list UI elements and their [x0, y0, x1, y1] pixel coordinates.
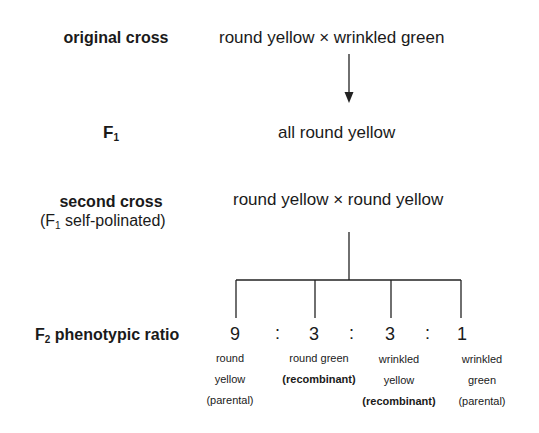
outcome-line: green — [442, 370, 522, 391]
ratio-separator: : — [425, 323, 430, 344]
second-cross-note-suffix: self-polinated) — [61, 212, 166, 229]
outcome-line: wrinkled — [349, 349, 449, 370]
outcome-status: (recombinant) — [349, 391, 449, 412]
outcome-line: wrinkled — [442, 349, 522, 370]
second-cross-content: round yellow × round yellow — [233, 190, 443, 210]
ratio-separator: : — [349, 323, 354, 344]
f2-label-main: F — [35, 326, 45, 343]
f1-content: all round yellow — [278, 123, 395, 143]
outcome-line: round — [190, 348, 270, 369]
original-cross-label: original cross — [56, 29, 176, 47]
ratio-value-1: 9 — [230, 324, 240, 345]
original-cross-content: round yellow × wrinkled green — [219, 28, 444, 48]
f1-label-sub: 1 — [113, 132, 119, 143]
branch-tree — [236, 232, 461, 318]
second-cross-note-prefix: (F — [40, 212, 55, 229]
ratio-value-4: 1 — [457, 324, 467, 345]
outcome-line: yellow — [349, 370, 449, 391]
f2-label: F2 phenotypic ratio — [35, 326, 179, 345]
second-cross-label: second cross — [46, 193, 176, 211]
outcome-round-yellow: round yellow (parental) — [190, 348, 270, 411]
outcome-line: yellow — [190, 369, 270, 390]
outcome-wrinkled-green: wrinkled green (parental) — [442, 349, 522, 412]
f2-label-suffix: phenotypic ratio — [50, 326, 179, 343]
outcome-status: (parental) — [190, 390, 270, 411]
outcome-wrinkled-yellow: wrinkled yellow (recombinant) — [349, 349, 449, 412]
f1-label: F1 — [96, 123, 126, 143]
f1-label-main: F — [103, 123, 113, 142]
outcome-status: (parental) — [442, 391, 522, 412]
arrow-down-icon — [345, 54, 354, 103]
ratio-separator: : — [275, 323, 280, 344]
ratio-value-3: 3 — [385, 324, 395, 345]
second-cross-note: (F1 self-polinated) — [40, 212, 166, 231]
ratio-value-2: 3 — [309, 324, 319, 345]
